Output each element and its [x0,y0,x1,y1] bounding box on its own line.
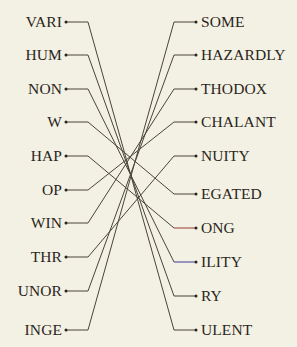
right-connector-dot-ry[interactable] [195,295,198,298]
left-word-thr[interactable]: THR [31,249,62,265]
left-connector-dot-inge[interactable] [65,329,68,332]
connection-line-w-to-egated[interactable] [66,122,196,194]
left-connector-dot-thr[interactable] [65,256,68,259]
right-connector-dot-hazardly[interactable] [195,54,198,57]
right-connector-dot-ulent[interactable] [195,329,198,332]
left-connector-dot-hum[interactable] [65,54,68,57]
right-word-chalant[interactable]: CHALANT [201,114,276,130]
right-connector-dot-some[interactable] [195,21,198,24]
right-connector-dot-egated[interactable] [195,193,198,196]
word-matching-puzzle: VARIHUMNONWHAPOPWINTHRUNORINGE SOMEHAZAR… [0,0,297,347]
right-word-ry[interactable]: RY [201,288,222,304]
connection-line-inge-to-some[interactable] [66,22,196,330]
left-word-hap[interactable]: HAP [31,148,62,164]
right-word-ong[interactable]: ONG [201,220,235,236]
left-connector-dot-vari[interactable] [65,21,68,24]
right-connector-dot-ong[interactable] [195,227,198,230]
right-word-some[interactable]: SOME [201,14,244,30]
right-word-egated[interactable]: EGATED [201,186,262,202]
left-connector-dot-unor[interactable] [65,290,68,293]
right-connector-dot-chalant[interactable] [195,121,198,124]
left-word-win[interactable]: WIN [31,215,62,231]
right-word-thodox[interactable]: THODOX [201,81,267,97]
right-word-hazardly[interactable]: HAZARDLY [201,47,286,63]
left-connector-dot-non[interactable] [65,88,68,91]
left-word-hum[interactable]: HUM [26,47,62,63]
connection-line-unor-to-hazardly[interactable] [66,55,196,291]
right-connector-dot-ility[interactable] [195,261,198,264]
connection-line-thr-to-nuity[interactable] [66,156,196,257]
left-connector-dot-hap[interactable] [65,155,68,158]
left-word-unor[interactable]: UNOR [18,283,62,299]
left-connector-dot-w[interactable] [65,121,68,124]
left-connector-dot-win[interactable] [65,222,68,225]
left-word-w[interactable]: W [47,114,62,130]
right-connector-dot-nuity[interactable] [195,155,198,158]
right-word-ility[interactable]: ILITY [201,254,242,270]
left-word-non[interactable]: NON [28,81,62,97]
right-word-ulent[interactable]: ULENT [201,322,252,338]
left-word-op[interactable]: OP [42,182,62,198]
left-connector-dot-op[interactable] [65,189,68,192]
right-connector-dot-thodox[interactable] [195,88,198,91]
right-word-nuity[interactable]: NUITY [201,148,250,164]
left-word-vari[interactable]: VARI [26,14,62,30]
left-word-inge[interactable]: INGE [25,322,62,338]
